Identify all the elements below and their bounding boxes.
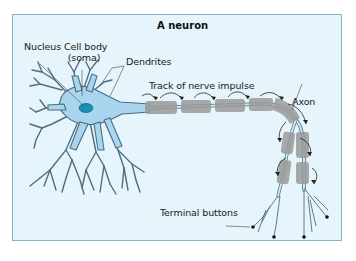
label-terminal-buttons: Terminal buttons (160, 208, 238, 219)
cell-body-graphic (59, 86, 150, 124)
neuron-illustration (0, 0, 356, 261)
label-track-of-nerve-impulse: Track of nerve impulse (149, 81, 255, 92)
nucleus-graphic (79, 104, 93, 113)
label-cell-body-line2: (soma) (64, 53, 104, 64)
label-dendrites: Dendrites (126, 57, 171, 68)
label-nucleus: Nucleus (24, 42, 61, 53)
diagram-title: A neuron (157, 20, 208, 31)
label-cell-body: Cell body (soma) (64, 42, 104, 64)
axon-terminals (254, 188, 328, 236)
myelin-sheath-graphic (145, 98, 309, 185)
neuron-diagram: A neuron Nucleus Cell body (soma) Dendri… (0, 0, 356, 261)
label-axon: Axon (292, 97, 315, 108)
